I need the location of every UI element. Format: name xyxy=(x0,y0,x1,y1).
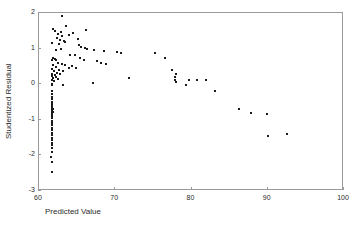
y-tick-label: 2 xyxy=(24,8,35,16)
y-tick-label: -2 xyxy=(24,150,35,158)
x-tick-label: 100 xyxy=(337,194,349,202)
y-tick-mark xyxy=(38,12,41,13)
x-tick-mark xyxy=(114,187,115,190)
plot-area-frame xyxy=(38,12,343,190)
x-tick-mark xyxy=(343,187,344,190)
y-tick-label: 1 xyxy=(24,44,35,52)
x-tick-label: 70 xyxy=(110,194,118,202)
x-tick-label: 80 xyxy=(187,194,195,202)
x-axis-label: Predicted Value xyxy=(45,207,101,216)
x-tick-label: 60 xyxy=(34,194,42,202)
y-tick-mark xyxy=(38,190,41,191)
scatter-plot-figure: 60708090100210-1-2-3 Predicted Value Stu… xyxy=(0,0,358,228)
y-tick-mark xyxy=(38,154,41,155)
y-tick-mark xyxy=(38,48,41,49)
x-tick-mark xyxy=(191,187,192,190)
y-tick-mark xyxy=(38,83,41,84)
y-tick-label: 0 xyxy=(24,79,35,87)
x-tick-mark xyxy=(267,187,268,190)
y-axis-label: Studentized Residual xyxy=(2,40,16,162)
x-tick-label: 90 xyxy=(263,194,271,202)
y-tick-mark xyxy=(38,119,41,120)
y-tick-label: -1 xyxy=(24,115,35,123)
y-tick-label: -3 xyxy=(24,186,35,194)
